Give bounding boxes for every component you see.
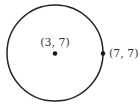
center-point	[53, 51, 57, 55]
point-on-circle	[101, 51, 105, 55]
circle-diagram: (3, 7) (7, 7)	[0, 0, 140, 104]
center-label: (3, 7)	[40, 36, 70, 49]
point-label: (7, 7)	[109, 47, 139, 60]
